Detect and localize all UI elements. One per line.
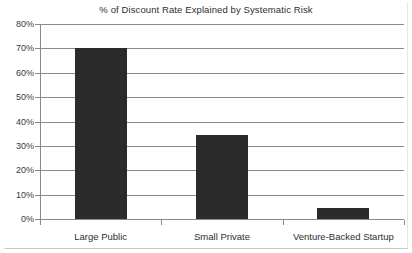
y-axis-tick-label: 80%: [0, 19, 34, 29]
y-axis-tick: [35, 73, 40, 74]
y-axis-tick: [35, 146, 40, 147]
chart-title: % of Discount Rate Explained by Systemat…: [0, 4, 412, 15]
y-axis-tick-label: 10%: [0, 189, 34, 199]
y-axis-tick: [35, 195, 40, 196]
bar-large-public: [75, 48, 127, 219]
gridline: [40, 24, 404, 25]
bar-small-private: [196, 135, 248, 219]
x-axis-tick: [40, 220, 41, 225]
y-axis-tick: [35, 48, 40, 49]
bar-chart: % of Discount Rate Explained by Systemat…: [0, 0, 412, 253]
x-axis-tick: [404, 220, 405, 225]
gridline: [40, 219, 404, 220]
y-axis-tick-label: 60%: [0, 67, 34, 77]
plot-area: [40, 24, 404, 219]
x-axis-tick-label: Large Public: [74, 231, 127, 242]
y-axis-tick: [35, 97, 40, 98]
x-axis-tick-label: Venture-Backed Startup: [293, 231, 394, 242]
y-axis-tick-label: 40%: [0, 116, 34, 126]
x-axis-tick: [161, 220, 162, 225]
y-axis-tick: [35, 170, 40, 171]
y-axis-tick: [35, 122, 40, 123]
y-axis-tick-label: 0%: [0, 214, 34, 224]
y-axis-tick-label: 20%: [0, 165, 34, 175]
y-axis-tick: [35, 24, 40, 25]
x-axis-tick-label: Small Private: [194, 231, 250, 242]
y-axis-tick-label: 70%: [0, 43, 34, 53]
y-axis-tick-label: 30%: [0, 140, 34, 150]
bar-venture-backed-startup: [317, 208, 369, 219]
x-axis-tick: [283, 220, 284, 225]
y-axis-tick-label: 50%: [0, 92, 34, 102]
